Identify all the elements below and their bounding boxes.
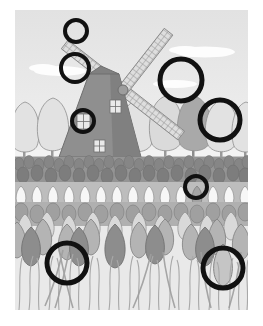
cloud-left2 bbox=[29, 64, 57, 72]
window-lower bbox=[94, 140, 105, 152]
window-upper bbox=[110, 100, 121, 113]
cloud-right2 bbox=[169, 46, 201, 54]
screenshot-canvas bbox=[0, 0, 263, 326]
cloud-mid bbox=[153, 80, 197, 88]
scene-svg bbox=[15, 10, 248, 310]
windmill-hub bbox=[118, 85, 128, 95]
window-circled bbox=[77, 114, 90, 129]
illustration-artwork bbox=[15, 10, 248, 310]
